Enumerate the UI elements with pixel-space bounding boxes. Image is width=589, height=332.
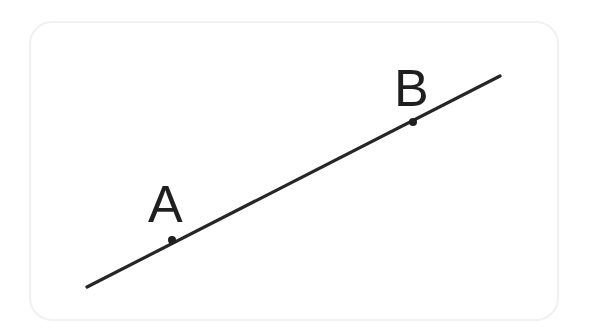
point-marker-a xyxy=(168,236,176,244)
point-label-a: A xyxy=(148,175,183,233)
geometry-figure-svg: A B xyxy=(0,0,589,332)
figure-canvas: A B xyxy=(0,0,589,332)
point-marker-b xyxy=(409,118,417,126)
point-label-b: B xyxy=(394,59,429,117)
